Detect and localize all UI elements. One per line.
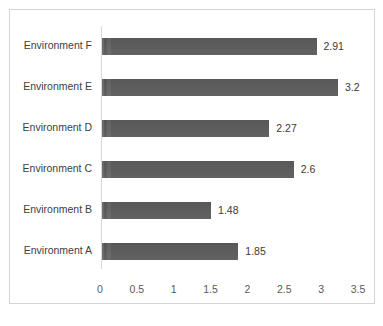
plot-area: 2.91 3.2 2.27 2.6 1.48 1.85 xyxy=(101,26,359,269)
bar-row: 2.6 xyxy=(101,149,359,190)
bar-value-label: 2.91 xyxy=(317,38,344,55)
bar-row: 2.91 xyxy=(101,26,359,67)
value-axis-tick-label: 1.5 xyxy=(203,281,218,297)
bar-value-label: 2.27 xyxy=(269,120,296,137)
value-axis-tick-label: 0.5 xyxy=(130,281,145,297)
bar-row: 1.85 xyxy=(101,231,359,272)
category-label-environment-c: Environment C xyxy=(23,160,100,177)
bar-row: 3.2 xyxy=(101,67,359,108)
bar-value-label: 3.2 xyxy=(338,79,360,96)
value-axis-tick-label: 3 xyxy=(318,281,324,297)
bar-chart-figure: 2.91 3.2 2.27 2.6 1.48 1.85 xyxy=(0,0,383,326)
value-axis-tick-label: 0 xyxy=(97,281,103,297)
bar-value-label: 2.6 xyxy=(294,161,316,178)
bar-environment-d xyxy=(102,120,269,137)
category-label-environment-a: Environment A xyxy=(24,242,100,259)
value-axis-tick-label: 2 xyxy=(245,281,251,297)
bar-row: 1.48 xyxy=(101,190,359,231)
value-axis-tick-label: 1 xyxy=(171,281,177,297)
bar-environment-f xyxy=(102,38,317,55)
category-label-environment-e: Environment E xyxy=(23,78,100,95)
bar-environment-c xyxy=(102,161,294,178)
category-label-environment-b: Environment B xyxy=(23,201,100,218)
value-axis-tick-label: 2.5 xyxy=(277,281,292,297)
category-label-environment-d: Environment D xyxy=(23,119,100,136)
value-axis-tick-labels: 00.511.522.533.5 xyxy=(100,281,358,297)
bar-value-label: 1.85 xyxy=(238,243,265,260)
bar-environment-e xyxy=(102,79,338,96)
category-axis: Environment F Environment E Environment … xyxy=(9,25,100,268)
bar-row: 2.27 xyxy=(101,108,359,149)
bar-environment-a xyxy=(102,243,238,260)
value-axis-tick-label: 3.5 xyxy=(351,281,366,297)
bar-environment-b xyxy=(102,202,211,219)
category-label-environment-f: Environment F xyxy=(24,37,100,54)
bar-value-label: 1.48 xyxy=(211,202,238,219)
